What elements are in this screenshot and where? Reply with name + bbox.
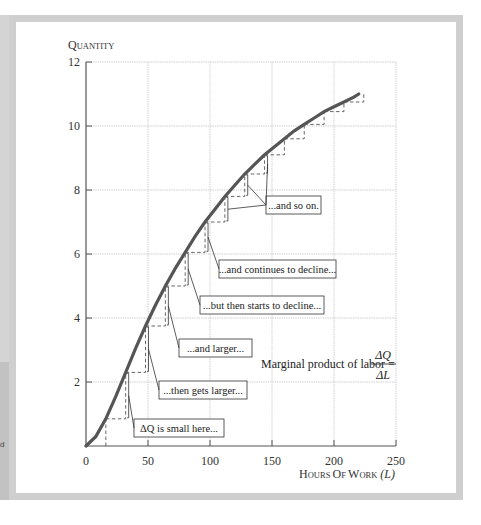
x-tick-label: 250 <box>387 454 405 468</box>
x-tick-label: 50 <box>142 454 154 468</box>
annotation-bracket <box>246 175 248 195</box>
annotation-text: ...but then starts to decline... <box>203 300 321 311</box>
annotation-leader <box>188 269 200 305</box>
annotation-bracket <box>207 223 209 251</box>
mpl-denominator: ΔL <box>375 368 390 382</box>
y-tick-label: 2 <box>74 375 80 389</box>
annotation-leader <box>168 306 179 348</box>
y-tick-label: 8 <box>74 183 80 197</box>
y-tick-label: 10 <box>68 119 80 133</box>
annotation-bracket <box>127 373 128 417</box>
y-tick-label: 4 <box>74 311 80 325</box>
annotation-leader <box>248 185 266 205</box>
annotation-text: ΔQ is small here... <box>140 423 218 434</box>
annotation-bracket <box>226 197 228 221</box>
x-axis-title: HOURS OF WORK (L) <box>299 467 395 481</box>
annotation-bracket <box>187 253 189 285</box>
x-tick-label: 150 <box>263 454 281 468</box>
annotation-leader <box>149 349 159 390</box>
annotation-text: ...and larger... <box>187 343 244 354</box>
mpl-formula: Marginal product of labor = ΔQ ΔL <box>261 348 396 382</box>
annotation-text: ...and continues to decline... <box>219 264 337 275</box>
y-tick-label: 12 <box>68 55 80 69</box>
x-tick-label: 100 <box>201 454 219 468</box>
production-chart: 24681012050100150200250 ΔQ is small here… <box>0 0 481 525</box>
y-tick-label: 6 <box>74 247 80 261</box>
annotation-text: ...then gets larger... <box>163 385 243 396</box>
annotation-text: ...and so on. <box>268 200 319 211</box>
x-tick-label: 200 <box>325 454 343 468</box>
annotation-leader <box>228 205 266 209</box>
mpl-numerator: ΔQ <box>374 348 391 362</box>
x-tick-label: 0 <box>83 454 89 468</box>
annotation-leader <box>129 396 134 428</box>
annotation-bracket <box>167 287 169 325</box>
y-axis-title: QUANTITY <box>68 38 114 52</box>
